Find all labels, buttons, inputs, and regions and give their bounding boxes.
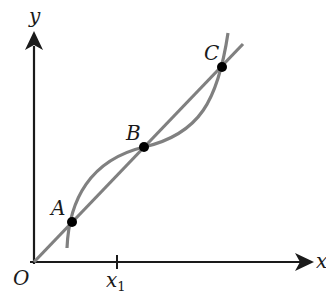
x-axis-label: x [316,249,326,273]
origin-label: O [13,266,29,290]
x1-label: x1 [106,268,126,293]
point-b-label: B [125,121,141,145]
y-axis-label: y [28,4,41,28]
point-a [67,217,77,227]
cubic-curve [67,33,228,248]
secant-line [34,44,243,262]
point-a-label: A [49,196,65,220]
point-c-label: C [204,41,219,65]
diagram-canvas: y x O x1 A B C [0,0,326,293]
